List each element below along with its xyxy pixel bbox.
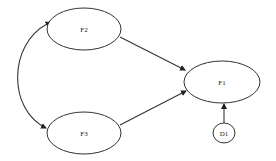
edge-f2-to-f1 (120, 37, 185, 70)
path-diagram: F2 F3 F1 D1 (0, 0, 276, 161)
node-f2: F2 (47, 8, 121, 50)
node-f1: F1 (184, 61, 260, 103)
node-f1-label: F1 (218, 79, 226, 87)
node-d1: D1 (213, 123, 235, 143)
node-f2-label: F2 (80, 26, 88, 34)
node-d1-label: D1 (220, 130, 229, 138)
node-f3-label: F3 (80, 130, 88, 138)
node-f3: F3 (47, 112, 121, 154)
edge-f3-to-f1 (120, 91, 186, 125)
edge-f2-f3-covariance (18, 24, 47, 128)
